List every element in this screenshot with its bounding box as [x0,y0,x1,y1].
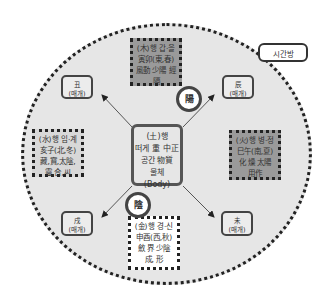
center-line-5: (Body) [134,179,180,191]
fire-line-4: 用作 [233,168,277,179]
center-line-4: 물체 [134,167,180,179]
water-line-1: (水)행 임·계 [36,134,80,145]
fire-line-2: 巳午(南,夏) [233,146,277,157]
branch-box-chen: 辰 (매개) [222,75,254,99]
branch-box-wei: 未 (매개) [221,211,253,236]
metal-line-2: 申酉(西,秋) [132,232,176,243]
element-box-wood: (木)행 갑·을 寅卯(東,春) 風動 少陽 經 隔 [130,38,182,86]
branch-box-chou: 丑 (매개) [61,75,93,99]
branch-chou-sub: (매개) [63,90,91,99]
fire-line-1: (火)행 병·정 [233,135,277,146]
wood-line-1: (木)행 갑·을 [134,43,178,54]
branch-box-xu: 戌 (매개) [61,211,93,236]
water-line-4: 靈,合,씨 [36,167,80,178]
wood-line-3: 風動 少陽 經 [134,65,178,76]
wood-line-4: 隔 [134,76,178,87]
center-earth-box: (土)행 떠게 重 中正 공간 物質 물체 (Body) [131,124,183,186]
yang-badge: 陽 [176,86,202,112]
element-box-water: (水)행 임·계 亥子(北,冬) 藏,寶,太陰, 靈,合,씨 [32,129,84,177]
water-line-3: 藏,寶,太陰, [36,156,80,167]
branch-wei-sub: (매개) [223,226,251,235]
element-box-metal: (金)행 경·신 申酉(西,秋) 斂 界 少陰 成, 形 [128,216,180,270]
branch-wei-char: 未 [223,217,251,226]
element-box-fire: (火)행 병·정 巳午(南,夏) 化 燥 太陽 用作 [229,130,281,180]
branch-chen-char: 辰 [224,81,252,90]
fire-line-3: 化 燥 太陽 [233,157,277,168]
metal-line-3: 斂 界 少陰 [132,243,176,254]
metal-line-4: 成, 形 [132,254,176,265]
branch-xu-sub: (매개) [63,226,91,235]
metal-line-1: (金)행 경·신 [132,221,176,232]
center-line-3: 공간 物質 [134,155,180,167]
wood-line-2: 寅卯(東,春) [134,54,178,65]
center-line-2: 떠게 重 中正 [134,143,180,155]
branch-chou-char: 丑 [63,81,91,90]
center-line-1: (土)행 [134,131,180,143]
water-line-2: 亥子(北,冬) [36,145,80,156]
branch-xu-char: 戌 [63,217,91,226]
yin-badge: 陰 [125,192,151,218]
legend-label: 시간방 [258,43,308,62]
branch-chen-sub: (매개) [224,90,252,99]
